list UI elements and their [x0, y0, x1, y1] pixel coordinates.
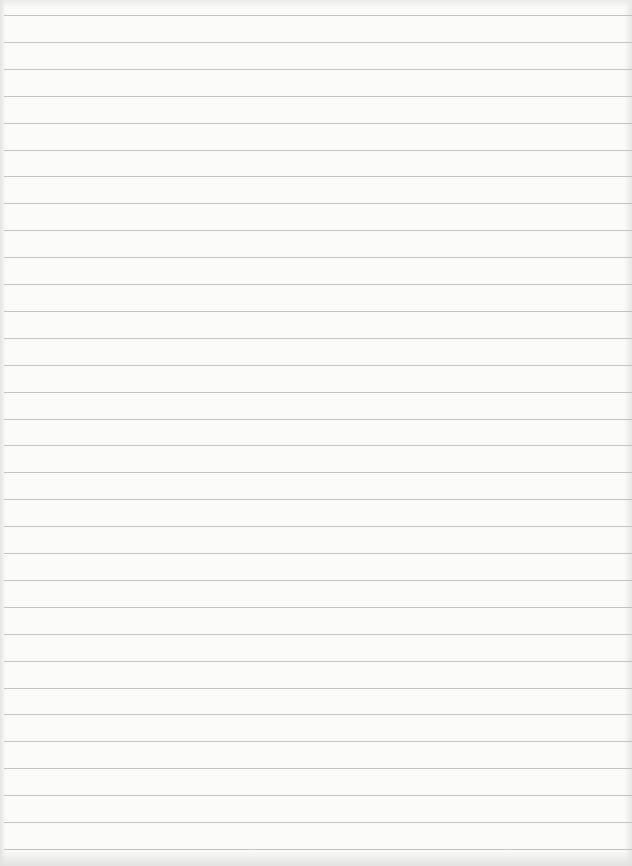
- ruled-line: [4, 392, 632, 393]
- ruled-line: [4, 419, 632, 420]
- ruled-line: [4, 445, 632, 446]
- paper-right-shadow: [624, 0, 632, 866]
- ruled-line: [4, 284, 632, 285]
- ruled-line: [4, 822, 632, 823]
- ruled-line: [4, 123, 632, 124]
- ruled-line: [4, 257, 632, 258]
- ruled-line: [4, 580, 632, 581]
- paper-top-shadow: [0, 0, 632, 8]
- ruled-line: [4, 849, 632, 850]
- ruled-line: [4, 741, 632, 742]
- ruled-line: [4, 795, 632, 796]
- ruled-line: [4, 499, 632, 500]
- ruled-line: [4, 15, 632, 16]
- ruled-line: [4, 176, 632, 177]
- ruled-line: [4, 203, 632, 204]
- ruled-line: [4, 634, 632, 635]
- ruled-line: [4, 230, 632, 231]
- paper-left-shadow: [0, 0, 6, 866]
- ruled-line: [4, 338, 632, 339]
- ruled-line: [4, 553, 632, 554]
- ruled-line: [4, 661, 632, 662]
- ruled-line: [4, 714, 632, 715]
- ruled-line: [4, 472, 632, 473]
- ruled-line: [4, 365, 632, 366]
- ruled-line: [4, 311, 632, 312]
- lined-paper-sheet: [0, 0, 632, 866]
- ruled-line: [4, 150, 632, 151]
- paper-bottom-shadow: [0, 850, 632, 866]
- ruled-line: [4, 526, 632, 527]
- ruled-line: [4, 768, 632, 769]
- ruled-line: [4, 607, 632, 608]
- ruled-line: [4, 688, 632, 689]
- ruled-line: [4, 69, 632, 70]
- ruled-line: [4, 42, 632, 43]
- ruled-line: [4, 96, 632, 97]
